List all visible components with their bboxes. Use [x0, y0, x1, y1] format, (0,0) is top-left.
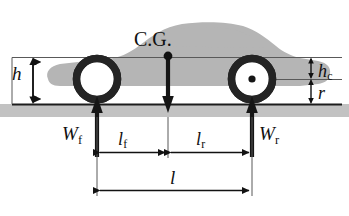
label-cg: C.G.: [134, 29, 172, 49]
label-lr: lr: [196, 130, 205, 151]
label-l: l: [170, 168, 175, 187]
label-wr: Wr: [259, 124, 279, 146]
label-wr-base: W: [259, 123, 275, 144]
label-lf-sub: f: [123, 137, 127, 151]
rear-hub-dot: [248, 75, 255, 82]
label-lr-sub: r: [201, 137, 205, 151]
label-hc-base: h: [318, 61, 327, 81]
label-lf: lf: [118, 130, 127, 151]
vehicle-weight-distribution-diagram: h hc r C.G. Wf Wr lf lr l: [0, 0, 349, 216]
label-wf-sub: f: [78, 133, 82, 147]
label-wf-base: W: [62, 123, 78, 144]
label-r: r: [318, 84, 325, 102]
label-wr-sub: r: [275, 133, 279, 147]
label-wf: Wf: [62, 124, 82, 146]
rear-wheel: [232, 59, 273, 100]
label-hc: hc: [318, 62, 332, 83]
label-h: h: [12, 64, 22, 83]
front-wheel: [77, 59, 118, 100]
cg-point: [164, 52, 173, 61]
label-hc-sub: c: [327, 69, 332, 83]
ground: [0, 104, 349, 117]
